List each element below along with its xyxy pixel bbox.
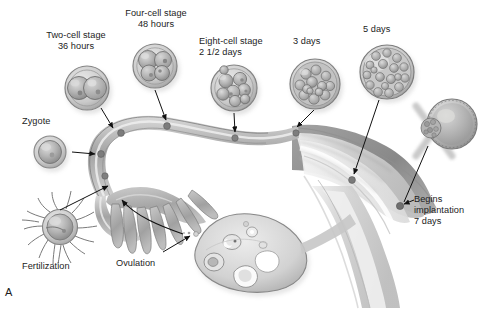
label-ovulation: Ovulation	[116, 258, 172, 269]
label-zygote: Zygote	[22, 116, 72, 127]
two-cell-embryo	[65, 66, 109, 110]
fertilization-oocyte	[22, 191, 97, 264]
leader-three-days	[297, 110, 314, 127]
ovulated-oocyte	[183, 232, 198, 237]
zygote-cell	[34, 136, 66, 168]
blastocyst-embryo	[360, 45, 414, 99]
ovary	[195, 214, 356, 293]
label-three-days: 3 days	[293, 36, 341, 47]
embryo-development-figure: Two-cell stage 36 hours Four-cell stage …	[0, 0, 486, 310]
label-fertilization: Fertilization	[22, 261, 86, 272]
label-five-days: 5 days	[363, 24, 411, 35]
label-four-cell-stage: Four-cell stage 48 hours	[104, 8, 208, 30]
label-eight-cell-stage: Eight-cell stage 2 1/2 days	[199, 36, 293, 58]
leader-two-cell	[101, 108, 113, 128]
leader-four-cell	[155, 90, 166, 120]
morula-embryo	[290, 59, 340, 109]
leader-eight-cell	[234, 113, 235, 132]
inner-cell-mass	[421, 118, 441, 138]
four-cell-embryo	[133, 44, 177, 88]
panel-letter: A	[5, 286, 12, 298]
implanting-blastocyst	[416, 99, 477, 156]
label-begins-implantation: Begins implantation 7 days	[414, 194, 484, 228]
label-two-cell-stage: Two-cell stage 36 hours	[24, 30, 128, 52]
eight-cell-embryo	[211, 65, 257, 111]
